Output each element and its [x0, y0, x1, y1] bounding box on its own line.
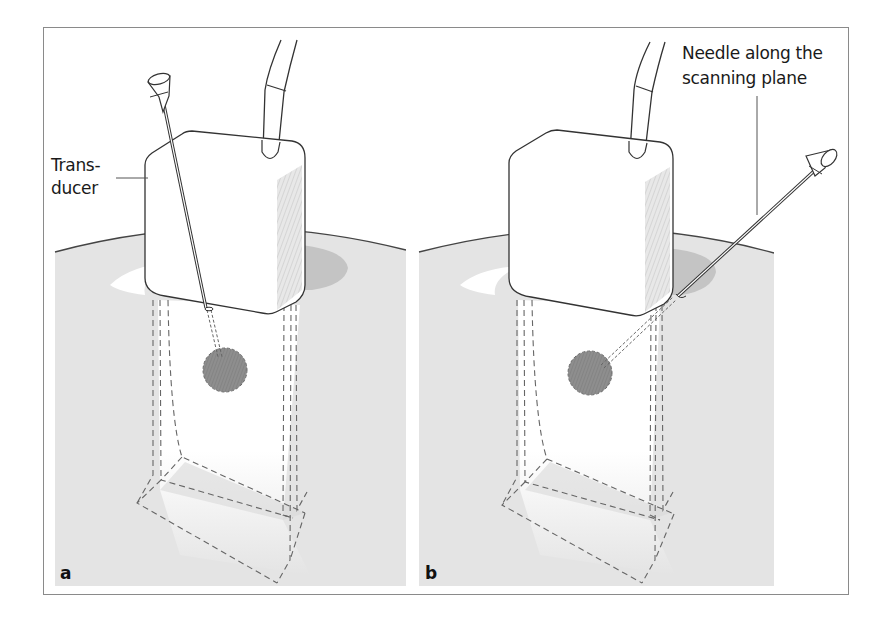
- lesion: [203, 348, 247, 392]
- needle-label-line2: scanning plane: [682, 66, 823, 91]
- needle-label-line1: Needle along the: [682, 41, 823, 66]
- transducer-label: Trans- ducer: [51, 154, 100, 200]
- transducer-label-line1: Trans-: [51, 154, 100, 177]
- needle-scanning-plane-label: Needle along the scanning plane: [682, 41, 823, 91]
- transducer-b: [509, 130, 673, 316]
- ultrasound-biopsy-figure: [0, 0, 874, 621]
- transducer-label-line2: ducer: [51, 177, 100, 200]
- transducer-a: [145, 131, 305, 314]
- lesion: [568, 351, 612, 395]
- panel-letter-a: a: [60, 563, 71, 583]
- panel-letter-b: b: [425, 563, 437, 583]
